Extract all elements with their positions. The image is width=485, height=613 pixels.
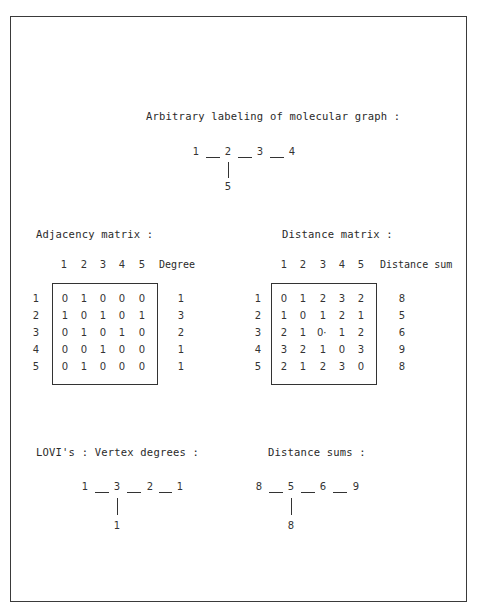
matrix-cell: 3 — [355, 344, 367, 355]
graph-vertex: 2 — [222, 146, 234, 157]
matrix-cell: 0 — [116, 344, 128, 355]
lovi-degrees-title: LOVI's : Vertex degrees : — [36, 446, 199, 458]
matrix-cell: 1 — [59, 310, 71, 321]
graph-vertex: 1 — [174, 481, 186, 492]
row-label: 3 — [252, 327, 264, 338]
col-header: 5 — [355, 259, 367, 270]
matrix-cell: 0 — [355, 361, 367, 372]
matrix-cell: 0 — [116, 293, 128, 304]
matrix-cell: 2 — [317, 293, 329, 304]
graph-vertex: 8 — [285, 520, 297, 531]
graph-bond — [117, 498, 118, 515]
matrix-cell: 0 — [97, 293, 109, 304]
graph-bond — [127, 492, 141, 493]
matrix-cell: 3 — [336, 361, 348, 372]
row-label: 5 — [252, 361, 264, 372]
matrix-cell: 0 — [97, 361, 109, 372]
matrix-cell: 0 — [116, 361, 128, 372]
matrix-cell: 0 — [278, 293, 290, 304]
matrix-cell: 0 — [136, 344, 148, 355]
graph-vertex: 1 — [79, 481, 91, 492]
graph-bond — [269, 492, 283, 493]
matrix-cell: 0 — [297, 310, 309, 321]
graph-bond — [228, 162, 229, 178]
row-label: 1 — [252, 293, 264, 304]
graph-vertex: 2 — [144, 481, 156, 492]
distance-title: Distance matrix : — [282, 228, 393, 240]
matrix-cell: 0 — [336, 344, 348, 355]
graph-vertex: 4 — [286, 146, 298, 157]
graph-vertex: 1 — [190, 146, 202, 157]
matrix-cell: 1 — [317, 344, 329, 355]
matrix-cell: 2 — [278, 361, 290, 372]
graph-bond — [95, 492, 109, 493]
graph-bond — [238, 157, 252, 158]
matrix-cell: 1 — [336, 327, 348, 338]
row-label: 2 — [252, 310, 264, 321]
matrix-cell: 1 — [78, 361, 90, 372]
col-header: 4 — [116, 259, 128, 270]
matrix-cell: 0 — [97, 327, 109, 338]
graph-vertex: 5 — [285, 481, 297, 492]
matrix-cell: 2 — [278, 327, 290, 338]
matrix-cell: 0 — [136, 293, 148, 304]
graph-vertex: 6 — [317, 481, 329, 492]
col-header: 1 — [278, 259, 290, 270]
matrix-cell: 3 — [336, 293, 348, 304]
row-label: 2 — [30, 310, 42, 321]
distance-sum-value: 6 — [396, 327, 408, 338]
matrix-cell: 2 — [297, 344, 309, 355]
matrix-cell: 0 — [116, 310, 128, 321]
graph-vertex: 1 — [111, 520, 123, 531]
graph-bond — [159, 492, 172, 493]
graph-bond — [333, 492, 347, 493]
row-label: 1 — [30, 293, 42, 304]
matrix-cell: 1 — [78, 293, 90, 304]
matrix-cell: 1 — [78, 327, 90, 338]
matrix-cell: 2 — [317, 361, 329, 372]
matrix-cell: 1 — [278, 310, 290, 321]
matrix-cell: 2 — [355, 327, 367, 338]
col-header: 2 — [78, 259, 90, 270]
matrix-cell: 1 — [297, 327, 309, 338]
col-header: 3 — [317, 259, 329, 270]
degree-value: 1 — [175, 293, 187, 304]
matrix-cell: 1 — [355, 310, 367, 321]
matrix-cell: 0 — [59, 293, 71, 304]
matrix-cell: 0 — [78, 344, 90, 355]
matrix-cell: 2 — [336, 310, 348, 321]
matrix-cell: 0 — [136, 361, 148, 372]
graph-bond — [270, 157, 284, 158]
matrix-cell: 1 — [297, 361, 309, 372]
row-label: 3 — [30, 327, 42, 338]
degree-value: 2 — [175, 327, 187, 338]
distance-sum-value: 9 — [396, 344, 408, 355]
lovi-distance-title: Distance sums : — [268, 446, 366, 458]
adjacency-title: Adjacency matrix : — [36, 228, 153, 240]
graph-vertex: 8 — [253, 481, 265, 492]
col-header: 4 — [336, 259, 348, 270]
col-header: 2 — [297, 259, 309, 270]
distance-sum-value: 8 — [396, 293, 408, 304]
matrix-cell: 2 — [355, 293, 367, 304]
matrix-cell: 0 — [59, 361, 71, 372]
degree-header: Degree — [159, 259, 195, 270]
graph-bond — [291, 498, 292, 515]
row-label: 4 — [252, 344, 264, 355]
graph-vertex: 3 — [254, 146, 266, 157]
graph-bond — [206, 157, 220, 158]
matrix-cell: 1 — [116, 327, 128, 338]
matrix-cell: 1 — [97, 344, 109, 355]
col-header: 5 — [136, 259, 148, 270]
matrix-cell: 0 — [59, 327, 71, 338]
matrix-cell: 1 — [317, 310, 329, 321]
distance-sum-value: 8 — [396, 361, 408, 372]
row-label: 4 — [30, 344, 42, 355]
matrix-cell: 1 — [136, 310, 148, 321]
degree-value: 1 — [175, 344, 187, 355]
graph-vertex: 9 — [350, 481, 362, 492]
col-header: 3 — [97, 259, 109, 270]
row-label: 5 — [30, 361, 42, 372]
degree-value: 1 — [175, 361, 187, 372]
labeling-title: Arbitrary labeling of molecular graph : — [146, 110, 400, 122]
